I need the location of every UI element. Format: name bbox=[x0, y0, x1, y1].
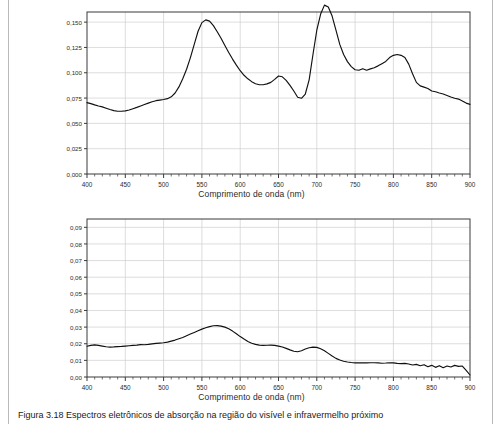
chart-top-spectrum: 0,0000,0250,0500,0750,1000,1250,15040045… bbox=[0, 2, 503, 207]
svg-text:400: 400 bbox=[82, 181, 93, 188]
svg-text:0,07: 0,07 bbox=[70, 257, 83, 264]
svg-text:0,06: 0,06 bbox=[70, 274, 83, 281]
svg-text:750: 750 bbox=[350, 384, 361, 391]
svg-text:400: 400 bbox=[82, 384, 93, 391]
svg-text:0,03: 0,03 bbox=[70, 324, 83, 331]
svg-text:900: 900 bbox=[465, 181, 476, 188]
svg-text:0,000: 0,000 bbox=[67, 171, 83, 178]
svg-text:650: 650 bbox=[273, 384, 284, 391]
svg-text:0,100: 0,100 bbox=[67, 69, 83, 76]
svg-text:0,09: 0,09 bbox=[70, 224, 83, 231]
svg-text:550: 550 bbox=[197, 181, 208, 188]
svg-text:0,025: 0,025 bbox=[67, 145, 83, 152]
svg-text:0,075: 0,075 bbox=[67, 95, 83, 102]
chart-bottom-xaxis-title: Comprimento de onda (nm) bbox=[0, 392, 503, 402]
figure-caption-text: Figura 3.18 Espectros eletrônicos de abs… bbox=[18, 410, 383, 420]
svg-text:800: 800 bbox=[388, 181, 399, 188]
svg-text:0,02: 0,02 bbox=[70, 340, 83, 347]
svg-text:900: 900 bbox=[465, 384, 476, 391]
svg-text:650: 650 bbox=[273, 181, 284, 188]
svg-text:0,05: 0,05 bbox=[70, 290, 83, 297]
figure-page: 0,0000,0250,0500,0750,1000,1250,15040045… bbox=[0, 0, 503, 424]
chart-top-svg: 0,0000,0250,0500,0750,1000,1250,15040045… bbox=[0, 2, 503, 207]
svg-text:450: 450 bbox=[120, 181, 131, 188]
svg-text:450: 450 bbox=[120, 384, 131, 391]
svg-text:0,150: 0,150 bbox=[67, 19, 83, 26]
svg-text:500: 500 bbox=[158, 384, 169, 391]
svg-text:800: 800 bbox=[388, 384, 399, 391]
svg-text:700: 700 bbox=[311, 384, 322, 391]
svg-text:850: 850 bbox=[426, 181, 437, 188]
chart-bottom-plot-area: 0,000,010,020,030,040,050,060,070,080,09… bbox=[0, 212, 503, 408]
svg-text:600: 600 bbox=[235, 181, 246, 188]
svg-text:750: 750 bbox=[350, 181, 361, 188]
svg-text:550: 550 bbox=[197, 384, 208, 391]
svg-text:0,08: 0,08 bbox=[70, 241, 83, 248]
svg-text:0,01: 0,01 bbox=[70, 357, 83, 364]
svg-text:0,04: 0,04 bbox=[70, 307, 83, 314]
svg-text:700: 700 bbox=[311, 181, 322, 188]
svg-text:850: 850 bbox=[426, 384, 437, 391]
chart-bottom-spectrum: 0,000,010,020,030,040,050,060,070,080,09… bbox=[0, 212, 503, 408]
svg-text:0,00: 0,00 bbox=[70, 374, 83, 381]
svg-text:0,050: 0,050 bbox=[67, 120, 83, 127]
svg-text:500: 500 bbox=[158, 181, 169, 188]
chart-bottom-svg: 0,000,010,020,030,040,050,060,070,080,09… bbox=[0, 212, 503, 408]
svg-text:0,125: 0,125 bbox=[67, 44, 83, 51]
figure-caption: Figura 3.18 Espectros eletrônicos de abs… bbox=[18, 410, 488, 424]
svg-text:600: 600 bbox=[235, 384, 246, 391]
chart-top-plot-area: 0,0000,0250,0500,0750,1000,1250,15040045… bbox=[0, 2, 503, 207]
chart-top-xaxis-title: Comprimento de onda (nm) bbox=[0, 189, 503, 199]
figure-body: 0,0000,0250,0500,0750,1000,1250,15040045… bbox=[0, 0, 503, 424]
